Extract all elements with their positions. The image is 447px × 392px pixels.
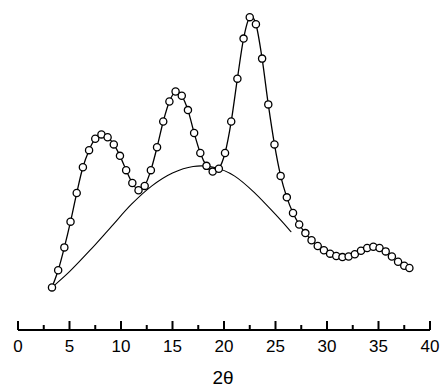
data-point-marker [234,75,241,82]
x-axis-tick-label: 25 [266,337,285,356]
data-point-markers [48,14,413,291]
x-axis-tick-labels: 0510152025303540 [13,337,439,356]
data-point-marker [141,182,148,189]
xrd-diffractogram-figure: 0510152025303540 2θ [0,0,447,392]
data-point-marker [184,107,191,114]
data-point-marker [160,118,167,125]
amorphous-background-curve [52,166,291,288]
x-axis-group: 0510152025303540 [13,321,439,356]
data-point-marker [197,149,204,156]
data-point-marker [252,21,259,28]
data-point-marker [123,167,130,174]
data-point-marker [55,267,62,274]
data-point-marker [283,194,290,201]
x-axis-ticks [18,321,430,330]
data-curve-group [52,16,409,287]
data-point-marker [191,129,198,136]
x-axis-tick-label: 15 [163,337,182,356]
background-curve-group [52,166,291,288]
data-point-marker [228,118,235,125]
x-axis-tick-label: 40 [421,337,440,356]
x-axis-tick-label: 30 [318,337,337,356]
data-point-marker [265,101,272,108]
data-point-marker [382,248,389,255]
data-point-marker [203,162,210,169]
data-point-marker [153,144,160,151]
data-point-marker [259,55,266,62]
data-point-marker [67,218,74,225]
data-point-marker [79,164,86,171]
data-point-marker [308,237,315,244]
data-point-marker [85,147,92,154]
data-point-marker [116,152,123,159]
x-axis-tick-label: 10 [112,337,131,356]
x-axis-tick-label: 5 [65,337,74,356]
diffraction-pattern-line [52,16,409,287]
data-point-marker [104,134,111,141]
x-axis-tick-label: 35 [369,337,388,356]
data-point-marker [246,14,253,21]
data-point-marker [110,141,117,148]
data-point-marker [73,189,80,196]
data-point-marker [215,165,222,172]
x-axis-title: 2θ [212,367,233,388]
data-point-marker [388,253,395,260]
data-point-marker [240,35,247,42]
data-point-marker [406,264,413,271]
data-point-marker [289,209,296,216]
x-axis-tick-label: 20 [215,337,234,356]
data-point-marker [221,149,228,156]
x-axis-tick-label: 0 [13,337,22,356]
data-point-marker [296,221,303,228]
data-point-marker [271,141,278,148]
data-point-marker [147,167,154,174]
data-point-marker [61,244,68,251]
chart-canvas: 0510152025303540 2θ [0,0,447,392]
data-point-marker [166,98,173,105]
data-point-marker [277,172,284,179]
data-point-marker [48,284,55,291]
data-point-marker [302,229,309,236]
data-point-marker [129,179,136,186]
data-point-marker [178,92,185,99]
